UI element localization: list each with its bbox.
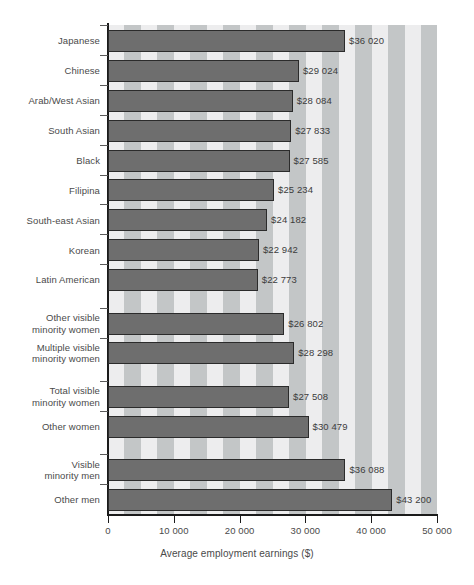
bar <box>108 179 274 201</box>
y-axis-tick <box>100 308 108 309</box>
category-label: Multiple visible minority women <box>0 342 100 365</box>
x-axis-tick <box>240 516 241 523</box>
x-axis-tick-label: 0 <box>105 525 110 536</box>
x-axis-tick <box>371 516 372 523</box>
bar <box>108 120 291 142</box>
x-axis-tick-label: 40 000 <box>356 525 386 536</box>
bar <box>108 30 345 52</box>
y-axis-tick <box>100 234 108 235</box>
category-label: Arab/West Asian <box>0 95 100 107</box>
bar-value-label: $30 479 <box>313 422 348 432</box>
category-label: Chinese <box>0 65 100 77</box>
bar-value-label: $27 508 <box>293 392 328 402</box>
y-axis-tick <box>100 55 108 56</box>
x-axis-tick <box>437 516 438 523</box>
y-axis-tick <box>100 411 108 412</box>
x-axis-tick-label: 10 000 <box>159 525 189 536</box>
y-axis-tick <box>100 175 108 176</box>
bar-value-label: $25 234 <box>278 185 313 195</box>
bar <box>108 313 284 335</box>
bar-value-label: $27 585 <box>294 156 329 166</box>
bar <box>108 60 299 82</box>
bar <box>108 459 345 481</box>
bar <box>108 342 294 364</box>
bar <box>108 150 290 172</box>
y-axis-tick <box>100 115 108 116</box>
bar-value-label: $28 298 <box>298 348 333 358</box>
y-axis-tick <box>100 25 108 26</box>
bar <box>108 416 309 438</box>
x-axis-tick-label: 50 000 <box>422 525 452 536</box>
bar <box>108 239 259 261</box>
bar-value-label: $29 024 <box>303 66 338 76</box>
bar-value-label: $22 942 <box>263 245 298 255</box>
category-label: Japanese <box>0 35 100 47</box>
bar <box>108 386 289 408</box>
bar-value-label: $22 773 <box>262 275 297 285</box>
bar-value-label: $28 084 <box>297 96 332 106</box>
y-axis-tick <box>100 338 108 339</box>
y-axis-tick <box>100 85 108 86</box>
bar-value-label: $27 833 <box>295 126 330 136</box>
category-label: Other visible minority women <box>0 312 100 335</box>
y-axis-tick <box>100 484 108 485</box>
category-label: Visible minority men <box>0 459 100 482</box>
y-axis-tick <box>100 264 108 265</box>
y-axis-tick <box>100 454 108 455</box>
x-axis-tick <box>108 516 109 523</box>
bar-value-label: $24 182 <box>271 215 306 225</box>
bar-value-label: $26 802 <box>288 319 323 329</box>
category-label: Korean <box>0 245 100 257</box>
category-label: South Asian <box>0 125 100 137</box>
category-label: Other women <box>0 421 100 433</box>
category-label: Black <box>0 155 100 167</box>
bar <box>108 489 392 511</box>
bar <box>108 269 258 291</box>
category-label: Other men <box>0 494 100 506</box>
x-axis-tick <box>174 516 175 523</box>
x-axis-tick <box>305 516 306 523</box>
category-label: Latin American <box>0 274 100 286</box>
bar-chart: $36 020$29 024$28 084$27 833$27 585$25 2… <box>0 0 474 585</box>
x-axis-tick-label: 20 000 <box>225 525 255 536</box>
bar-value-label: $43 200 <box>396 495 431 505</box>
category-label: Total visible minority women <box>0 385 100 408</box>
category-label: Filipina <box>0 185 100 197</box>
category-label: South-east Asian <box>0 215 100 227</box>
bar-value-label: $36 088 <box>349 465 384 475</box>
y-axis-tick <box>100 204 108 205</box>
x-axis-tick-label: 30 000 <box>291 525 321 536</box>
bar-value-label: $36 020 <box>349 36 384 46</box>
y-axis-tick <box>100 145 108 146</box>
bar <box>108 90 293 112</box>
x-axis-title: Average employment earnings ($) <box>0 548 474 559</box>
x-axis-line <box>107 514 438 516</box>
bar <box>108 209 267 231</box>
y-axis-tick <box>100 381 108 382</box>
